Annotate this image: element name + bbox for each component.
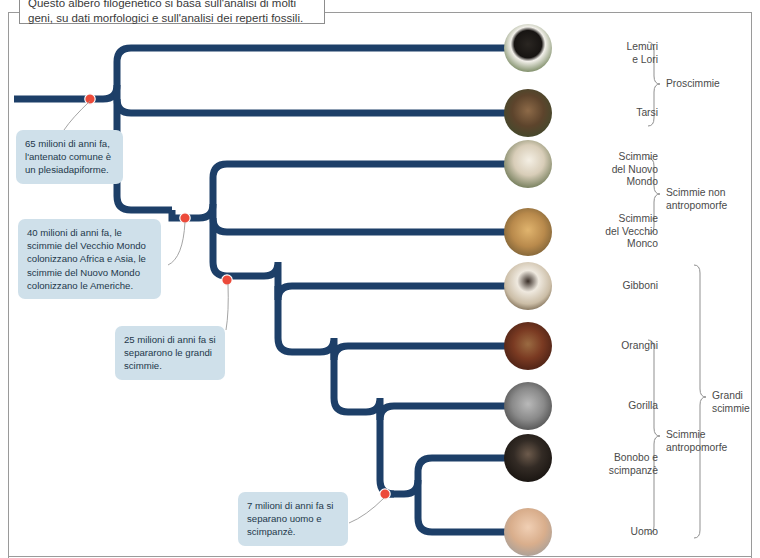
group-label-proscimmie: Proscimmie bbox=[666, 78, 720, 91]
branch-lemuri-e-lori bbox=[90, 48, 505, 99]
orangutan-photo bbox=[504, 322, 552, 370]
group-label-scimmie-non-antropomorfe: Scimmie non antropomorfe bbox=[666, 187, 727, 212]
taxon-label-uomo: Uomo bbox=[572, 526, 658, 539]
taxon-label-bonobo-e-scimpanze: Bonobo e scimpanzè bbox=[572, 452, 658, 477]
leader-7my bbox=[349, 498, 384, 523]
chimpanzee-photo bbox=[504, 434, 552, 482]
taxon-label-gorilla: Gorilla bbox=[572, 400, 658, 413]
taxon-label-tarsi: Tarsi bbox=[572, 107, 658, 120]
branch-scimmie-nuovo-mondo bbox=[185, 164, 505, 218]
gorilla-photo bbox=[504, 382, 552, 430]
leader-40my bbox=[168, 222, 185, 265]
capuchin-photo bbox=[504, 140, 552, 188]
taxon-label-lemuri-e-lori: Lemuri e Lori bbox=[572, 41, 658, 66]
human-photo bbox=[504, 508, 552, 556]
macaque-photo bbox=[504, 208, 552, 256]
node-65my-marker bbox=[85, 94, 95, 104]
branch-scimmie-vecchio-mondo bbox=[213, 204, 505, 232]
taxa-photos bbox=[504, 24, 552, 556]
branch-tarsi bbox=[117, 85, 505, 113]
gibbon-photo bbox=[504, 262, 552, 310]
node-40my-marker bbox=[180, 213, 190, 223]
group-label-scimmie-antropomorfe: Scimmie antropomorfe bbox=[666, 429, 727, 454]
callout-40-million-years: 40 milioni di anni fa, le scimmie del Ve… bbox=[18, 219, 161, 299]
taxon-label-scimmie-nuovo-mondo: Scimmie del Nuovo Mondo bbox=[572, 151, 658, 189]
tarsier-photo bbox=[504, 89, 552, 137]
bracket-grandi-scimmie bbox=[694, 265, 706, 538]
leader-25my bbox=[226, 284, 228, 330]
taxon-label-oranghi: Oranghi bbox=[572, 340, 658, 353]
taxon-label-scimmie-vecchio-mondo: Scimmie del Vecchio Monco bbox=[572, 213, 658, 251]
taxon-label-gibboni: Gibboni bbox=[572, 280, 658, 293]
branch-bonobo-e-scimpanze bbox=[385, 458, 505, 494]
bracket-scimmie-antropomorfe bbox=[648, 340, 660, 534]
lemur-photo bbox=[504, 24, 552, 72]
node-7my-marker bbox=[380, 489, 390, 499]
phylogenetic-tree-figure: Questo albero filogenetico si basa sull'… bbox=[0, 0, 760, 558]
branch-to-african-apes bbox=[334, 352, 360, 412]
branch-to-great-apes bbox=[278, 286, 306, 352]
branch-uomo bbox=[418, 480, 505, 532]
node-25my-marker bbox=[222, 275, 232, 285]
callout-25-million-years: 25 milioni di anni fa si separarono le g… bbox=[115, 326, 225, 380]
group-label-grandi-scimmie: Grandi scimmie bbox=[712, 390, 750, 415]
callout-65-million-years: 65 milioni di anni fa, l'antenato comune… bbox=[16, 130, 123, 184]
branch-to-node-7my bbox=[380, 412, 394, 494]
callout-7-million-years: 7 milioni di anni fa si separano uomo e … bbox=[238, 492, 348, 546]
leader-65my bbox=[64, 101, 90, 130]
